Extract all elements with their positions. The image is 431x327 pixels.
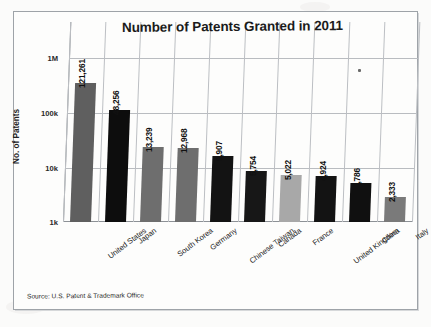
x-category-label: China [380,226,401,245]
x-category-label: South Korea [175,226,214,259]
bar-value-label: 48,256 [111,90,121,114]
bar [279,175,302,222]
y-tick-label: 1k [50,218,58,227]
bar [244,171,267,222]
scan-speck [358,69,361,72]
bar-value-label: 5,022 [283,160,293,180]
bar-value-label: 9,907 [214,141,224,161]
bar-value-label: 4,924 [318,161,328,181]
x-category-label: France [311,226,335,247]
bar-value-label: 2,333 [387,183,397,203]
y-tick-label: 10k [45,164,58,173]
plot-area [63,22,419,222]
bar-value-label: 5,754 [248,156,258,176]
gridline-v-9 [377,22,385,222]
bar-value-label: 3,786 [352,168,362,188]
y-axis-ticks: 1M 100k 10k 1k [20,0,58,327]
gridline-v-10 [412,22,420,222]
bar [105,110,130,222]
y-tick-label: 100k [41,109,58,118]
bar [210,156,233,222]
bar [175,148,199,222]
bar-value-label: 12,968 [179,128,189,152]
bar-value-label: 13,239 [144,128,154,152]
plot-wrapper: 1M 100k 10k 1k No. of Patents 121,26148,… [0,0,431,327]
x-category-label: Italy [414,226,431,242]
source-note: Source: U.S. Patent & Trademark Office [27,291,144,299]
chart-screenshot: 1M 100k 10k 1k No. of Patents 121,26148,… [0,0,431,327]
chart-title: Number of Patents Granted in 2011 [105,18,360,35]
bar [70,83,96,222]
bar [349,183,371,222]
y-tick-label: 1M [47,54,58,63]
bar [314,176,337,222]
bar-value-label: 121,261 [77,59,87,88]
bar [140,147,164,222]
y-axis-title: No. of Patents [12,97,21,177]
